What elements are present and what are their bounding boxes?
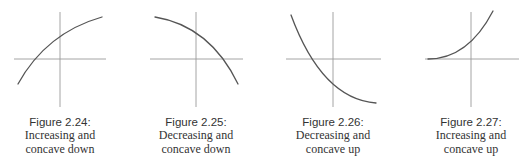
caption-line-1: Decreasing and	[131, 129, 261, 143]
figure-2-26-caption: Figure 2.26: Decreasing and concave up	[268, 116, 398, 156]
caption-line-2: concave down	[0, 143, 125, 157]
caption-line-2: concave up	[268, 143, 398, 157]
caption-line-2: concave up	[406, 143, 529, 157]
caption-line-2: concave down	[131, 143, 261, 157]
figure-row: Figure 2.24: Increasing and concave down…	[0, 0, 529, 167]
figure-2-27-graph	[425, 11, 519, 107]
figure-2-26-graph	[286, 12, 381, 107]
figure-2-25-caption: Figure 2.25: Decreasing and concave down	[131, 116, 261, 156]
figure-2-27-caption: Figure 2.27: Increasing and concave up	[406, 116, 529, 156]
figure-2-24-graph	[14, 12, 106, 107]
caption-line-1: Increasing and	[0, 129, 125, 143]
figure-2-24-caption: Figure 2.24: Increasing and concave down	[0, 116, 125, 156]
caption-line-1: Increasing and	[406, 129, 529, 143]
figure-2-25-graph	[150, 12, 243, 107]
curve-decreasing-concave-down	[155, 17, 238, 84]
curve-increasing-concave-up	[428, 11, 493, 59]
caption-line-1: Decreasing and	[268, 129, 398, 143]
